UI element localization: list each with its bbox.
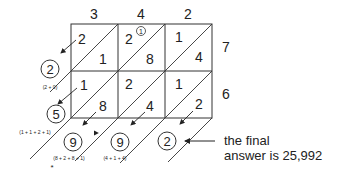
- cell-tens: 1: [175, 29, 183, 45]
- cell-tens: 2: [125, 31, 133, 47]
- multiplier-digit: 6: [222, 86, 230, 102]
- svg-text:9: 9: [116, 135, 123, 150]
- multiplicand-digit: 2: [184, 6, 192, 22]
- diagonal-sum: 9 (8 + 2 + 8 + 1) *: [50, 133, 85, 172]
- svg-text:*: *: [50, 163, 53, 172]
- annotation-line-1: the final: [224, 133, 270, 148]
- cell-ones: 8: [146, 51, 154, 67]
- lattice-multiplication-diagram: 3 4 2 7 6 2 1 2 1 8 1 4 1 8 2 4 1 2: [0, 0, 339, 174]
- svg-text:(1 + 1 + 2 + 1): (1 + 1 + 2 + 1): [19, 129, 51, 135]
- svg-text:2: 2: [163, 134, 170, 149]
- cell-ones: 4: [146, 98, 154, 114]
- svg-text:2: 2: [46, 62, 53, 77]
- cell-tens: 2: [125, 76, 133, 92]
- cell-tens: 1: [80, 77, 88, 93]
- diagonal-sum: 2: [158, 132, 176, 150]
- lattice-grid: [71, 24, 212, 118]
- cell-tens: 2: [78, 31, 86, 47]
- svg-text:5: 5: [52, 107, 59, 122]
- cell-ones: 1: [99, 51, 107, 67]
- svg-text:(4 + 1 + 4): (4 + 1 + 4): [103, 155, 126, 161]
- svg-text:(2 + 0): (2 + 0): [43, 84, 58, 90]
- carry-digit: 1: [139, 28, 143, 35]
- cell-ones: 8: [99, 98, 107, 114]
- cell-ones: 2: [195, 96, 203, 112]
- diagonal-sum: 9 (4 + 1 + 4): [103, 133, 129, 161]
- cell-ones: 4: [195, 49, 203, 65]
- diagonal-sum: 2 (2 + 0): [41, 60, 59, 90]
- multiplier-digit: 7: [222, 39, 230, 55]
- multiplicand-digit: 3: [90, 6, 98, 22]
- cell-tens: 1: [175, 76, 183, 92]
- multiplicand-digit: 4: [137, 6, 145, 22]
- annotation-line-2: answer is 25,992: [224, 148, 322, 163]
- svg-text:(8 + 2 + 8 + 1): (8 + 2 + 8 + 1): [53, 155, 85, 161]
- svg-text:9: 9: [69, 135, 76, 150]
